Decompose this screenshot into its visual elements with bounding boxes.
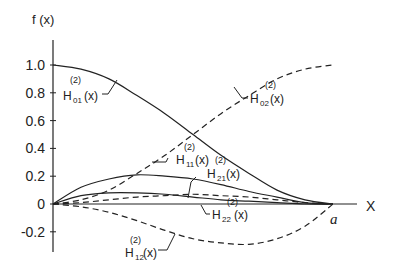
label-H11: (2) H11(x) (176, 142, 209, 169)
svg-text:H: H (250, 92, 259, 106)
svg-text:01: 01 (73, 96, 82, 105)
y-tick-label: 0.2 (26, 168, 46, 184)
label-H21: (2) H21(x) (207, 155, 240, 183)
y-tick-label: 0.8 (26, 85, 46, 101)
svg-text:(x): (x) (143, 246, 157, 260)
leader-arrows (102, 80, 248, 250)
x-end-label: a (330, 211, 338, 227)
svg-text:(2): (2) (215, 155, 226, 165)
svg-text:(2): (2) (130, 235, 141, 245)
y-tick-label: 0.6 (26, 113, 46, 129)
svg-text:11: 11 (186, 160, 195, 169)
svg-text:H: H (176, 153, 185, 167)
y-tick-label: 1.0 (26, 57, 46, 73)
curve-h012x (53, 65, 333, 204)
svg-text:(2): (2) (184, 142, 195, 152)
curve-h112x (53, 175, 333, 204)
svg-text:(x): (x) (195, 153, 209, 167)
y-ticks: 1.00.80.60.40.20-0.2 (21, 57, 56, 240)
label-H02: (2) H02(x) (250, 80, 284, 108)
svg-text:(x): (x) (84, 89, 98, 103)
svg-text:(2): (2) (70, 75, 81, 85)
svg-text:H: H (212, 208, 221, 222)
svg-text:(2): (2) (265, 80, 276, 90)
curve-h122x (53, 204, 333, 245)
label-H01: (2) H01(x) (63, 75, 98, 105)
svg-text:H: H (207, 167, 216, 181)
y-tick-label: 0.4 (26, 140, 46, 156)
svg-text:(x): (x) (226, 167, 240, 181)
y-tick-label: -0.2 (21, 224, 45, 240)
label-H12: (2) H12(x) (125, 235, 157, 262)
x-axis-label: X (366, 198, 376, 214)
svg-text:(x): (x) (234, 208, 248, 222)
y-tick-label: 0 (37, 196, 45, 212)
svg-text:(x): (x) (270, 92, 284, 106)
svg-text:H: H (63, 89, 72, 103)
hermite-basis-chart: 1.00.80.60.40.20-0.2 f (x) X a (2) H01(x… (0, 0, 396, 278)
y-axis-label: f (x) (32, 12, 54, 27)
svg-text:H: H (125, 246, 134, 260)
svg-text:22: 22 (222, 215, 231, 224)
svg-text:(2): (2) (227, 197, 238, 207)
svg-text:02: 02 (260, 99, 269, 108)
